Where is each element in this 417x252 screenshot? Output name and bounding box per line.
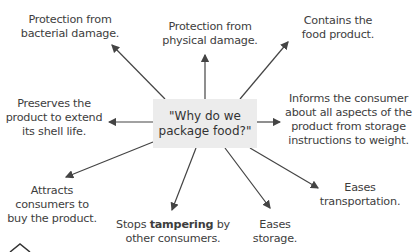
- center-question: "Why do wepackage food?": [153, 99, 257, 148]
- node-bacterial: Protection frombacterial damage.: [10, 13, 130, 41]
- arrow-storage: [225, 148, 270, 208]
- page-corner-icon: [10, 244, 30, 252]
- node-shelf: Preserves theproduct to extendits shell …: [0, 97, 108, 139]
- arrow-attracts: [66, 142, 153, 177]
- node-attracts: Attractsconsumers tobuy the product.: [2, 184, 102, 226]
- node-physical: Protection fromphysical damage.: [155, 20, 265, 48]
- node-contains: Contains thefood product.: [288, 14, 388, 42]
- arrow-bacterial: [112, 45, 165, 99]
- arrow-tampering: [172, 148, 196, 210]
- arrow-contains: [240, 42, 288, 99]
- node-informs: Informs the consumerabout all aspects of…: [280, 92, 417, 148]
- node-transport: Easestransportation.: [305, 181, 415, 209]
- node-storage: Easesstorage.: [245, 218, 305, 246]
- node-tampering: Stops tampering byother consumers.: [113, 218, 233, 246]
